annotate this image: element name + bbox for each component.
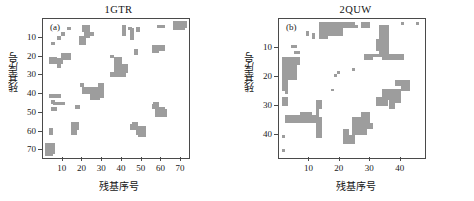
x-tick-label: 40 xyxy=(116,163,125,173)
contact-patch xyxy=(361,22,370,28)
contact-patch xyxy=(282,77,288,86)
x-tick-label: 50 xyxy=(136,163,145,173)
contact-patch xyxy=(157,25,165,29)
contact-patch xyxy=(337,71,340,74)
y-tick xyxy=(274,134,278,135)
contact-patch xyxy=(382,54,403,60)
y-tick-label: 70 xyxy=(16,144,36,154)
contact-patch xyxy=(294,51,300,54)
contact-patch xyxy=(57,36,61,40)
contact-patch xyxy=(312,33,315,39)
panel-title: 1GTR xyxy=(0,4,237,15)
contact-patch xyxy=(98,83,104,91)
panel-title: 2QUW xyxy=(237,4,474,15)
y-tick-label: 10 xyxy=(16,32,36,42)
y-tick-label: 40 xyxy=(252,129,272,139)
contact-patch xyxy=(173,21,185,30)
x-axis-title: 残基序号 xyxy=(237,178,474,193)
x-tick xyxy=(339,157,340,161)
contact-patch xyxy=(316,117,322,137)
x-tick xyxy=(308,157,309,161)
x-axis-title: 残基序号 xyxy=(0,178,237,193)
contact-patch xyxy=(352,25,358,28)
contact-patch xyxy=(134,49,138,55)
y-tick xyxy=(38,93,42,94)
y-tick xyxy=(38,56,42,57)
plot-area-1gtr xyxy=(42,18,190,159)
panel-1gtr: 1GTR (a) 1020304050607010203040506070 残基… xyxy=(0,0,237,201)
panel-label: (a) xyxy=(50,22,60,32)
contact-patch xyxy=(364,54,373,60)
contact-patch xyxy=(352,126,367,135)
contact-patch xyxy=(49,128,53,136)
contact-patch xyxy=(155,107,165,116)
x-tick-label: 30 xyxy=(97,163,106,173)
contact-patch xyxy=(75,105,81,109)
contact-patch xyxy=(352,68,355,71)
contact-patch xyxy=(49,94,61,98)
y-axis-title: 残基序号 xyxy=(6,52,21,92)
contact-patch xyxy=(136,126,146,135)
y-tick xyxy=(274,47,278,48)
y-tick xyxy=(38,149,42,150)
x-tick-label: 60 xyxy=(156,163,165,173)
contact-patch xyxy=(282,149,285,152)
x-tick-label: 20 xyxy=(334,163,343,173)
contact-patch xyxy=(51,107,57,111)
contact-patch xyxy=(288,115,318,124)
y-tick xyxy=(38,112,42,113)
contact-patch xyxy=(361,112,370,124)
contact-patch xyxy=(53,102,65,106)
x-tick xyxy=(141,157,142,161)
x-tick xyxy=(160,157,161,161)
y-tick xyxy=(38,37,42,38)
plot-area-2quw xyxy=(278,18,426,159)
x-tick-label: 20 xyxy=(77,163,86,173)
contact-patch xyxy=(51,42,55,46)
panel-label: (b) xyxy=(286,22,297,32)
contact-patch xyxy=(328,22,340,31)
contact-patch xyxy=(61,32,65,36)
y-tick xyxy=(38,74,42,75)
x-tick-label: 40 xyxy=(395,163,404,173)
contact-patch xyxy=(316,100,322,109)
y-tick xyxy=(274,105,278,106)
y-tick-label: 60 xyxy=(16,126,36,136)
x-tick-label: 10 xyxy=(304,163,313,173)
contact-patch xyxy=(152,45,160,53)
contact-patch xyxy=(282,135,285,138)
x-tick xyxy=(62,157,63,161)
contact-patch xyxy=(376,97,388,106)
panel-2quw: 2QUW (b) 1020304010203040 残基序号 残基序号 xyxy=(237,0,474,201)
contact-patch xyxy=(94,90,104,98)
contact-patch xyxy=(343,135,355,144)
y-tick-label: 10 xyxy=(252,42,272,52)
x-tick-label: 30 xyxy=(365,163,374,173)
y-tick-label: 50 xyxy=(16,107,36,117)
contact-patch xyxy=(401,22,404,25)
contact-patch xyxy=(379,28,388,57)
contact-patch xyxy=(84,30,90,38)
contact-patch xyxy=(110,72,118,78)
contact-patch xyxy=(67,27,71,31)
x-tick-label: 10 xyxy=(57,163,66,173)
contact-patch xyxy=(401,80,410,92)
y-axis-title: 残基序号 xyxy=(242,52,257,92)
contact-patch xyxy=(118,68,126,77)
contact-cells xyxy=(279,19,425,158)
contact-patch xyxy=(110,55,114,59)
contact-patch xyxy=(136,27,140,33)
contact-patch xyxy=(306,31,309,37)
x-tick-label: 70 xyxy=(176,163,185,173)
contact-patch xyxy=(122,25,126,36)
contact-patch xyxy=(71,122,79,130)
x-tick xyxy=(121,157,122,161)
x-tick xyxy=(369,157,370,161)
contact-patch xyxy=(282,97,288,106)
x-tick xyxy=(180,157,181,161)
contact-patch xyxy=(282,65,291,77)
y-tick-label: 30 xyxy=(252,100,272,110)
x-tick xyxy=(400,157,401,161)
contact-patch xyxy=(55,58,63,64)
x-tick xyxy=(81,157,82,161)
